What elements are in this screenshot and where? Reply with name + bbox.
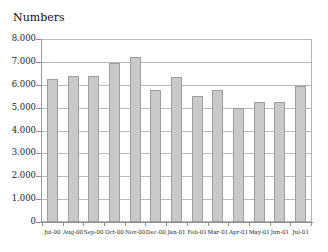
- y-axis-tick-label: 7.000: [2, 57, 36, 66]
- y-axis-tick: [36, 199, 41, 200]
- y-axis-tick-label-wrap: 4.000: [0, 126, 36, 135]
- x-axis-tick: [145, 223, 146, 226]
- y-axis-tick-label: 6.000: [2, 80, 36, 89]
- x-axis-tick: [270, 223, 271, 226]
- y-axis-tick-label-wrap: 8.000: [0, 34, 36, 43]
- y-axis-tick-label-wrap: 7.000: [0, 57, 36, 66]
- y-axis-tick-label-wrap: 5.000: [0, 103, 36, 112]
- y-axis-tick-label: 0: [2, 217, 36, 226]
- y-axis-tick: [36, 62, 41, 63]
- bar: [47, 79, 58, 222]
- x-axis-tick: [208, 223, 209, 226]
- x-axis-tick: [187, 223, 188, 226]
- bar: [212, 90, 223, 222]
- y-axis-tick-label-wrap: 1.000: [0, 194, 36, 203]
- x-axis-tick: [42, 223, 43, 226]
- bars-group: [42, 40, 312, 222]
- x-axis-tick: [104, 223, 105, 226]
- x-axis-tick: [290, 223, 291, 226]
- bar-chart: Numbers Jul-00Aug-00Sep-00Oct-00Nov-00De…: [0, 0, 328, 252]
- bar: [233, 108, 244, 222]
- y-axis-tick-label: 3.000: [2, 148, 36, 157]
- y-axis-tick-label: 1.000: [2, 194, 36, 203]
- y-axis-tick-label-wrap: 6.000: [0, 80, 36, 89]
- x-axis-tick: [228, 223, 229, 226]
- bar: [171, 77, 182, 222]
- y-axis-tick-label-wrap: 0: [0, 217, 36, 226]
- x-axis-tick: [249, 223, 250, 226]
- y-axis-tick-label: 2.000: [2, 171, 36, 180]
- y-axis-tick: [36, 131, 41, 132]
- bar: [192, 96, 203, 222]
- y-axis-tick-label: 4.000: [2, 126, 36, 135]
- x-axis-tick-label: Jul-01: [285, 228, 316, 236]
- y-axis-tick: [36, 108, 41, 109]
- x-axis-tick: [311, 223, 312, 226]
- y-axis-tick-label: 8.000: [2, 34, 36, 43]
- y-axis-tick-label-wrap: 2.000: [0, 171, 36, 180]
- bar: [150, 90, 161, 222]
- x-axis-tick: [125, 223, 126, 226]
- y-axis-tick-label: 5.000: [2, 103, 36, 112]
- bar: [295, 86, 306, 222]
- bar: [109, 63, 120, 222]
- bar: [130, 57, 141, 222]
- y-axis-tick: [36, 176, 41, 177]
- bar: [274, 102, 285, 222]
- y-axis-tick: [36, 85, 41, 86]
- chart-title: Numbers: [13, 11, 65, 25]
- bar: [68, 76, 79, 222]
- y-axis-tick: [36, 153, 41, 154]
- x-axis-tick: [63, 223, 64, 226]
- x-axis-tick: [83, 223, 84, 226]
- x-axis-tick: [166, 223, 167, 226]
- y-axis-tick-label-wrap: 3.000: [0, 148, 36, 157]
- bar: [88, 76, 99, 222]
- x-axis-line: [41, 222, 313, 223]
- y-axis-tick: [36, 222, 41, 223]
- y-axis-tick: [36, 39, 41, 40]
- bar: [254, 102, 265, 222]
